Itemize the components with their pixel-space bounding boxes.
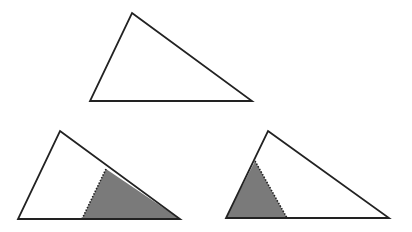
bottom-left-triangle-group: [18, 131, 180, 219]
top-triangle: [90, 13, 252, 101]
top-triangle-group: [90, 13, 252, 101]
triangles-diagram: [0, 0, 412, 232]
bottom-right-triangle-group: [226, 131, 389, 218]
diagram-canvas: [0, 0, 412, 232]
